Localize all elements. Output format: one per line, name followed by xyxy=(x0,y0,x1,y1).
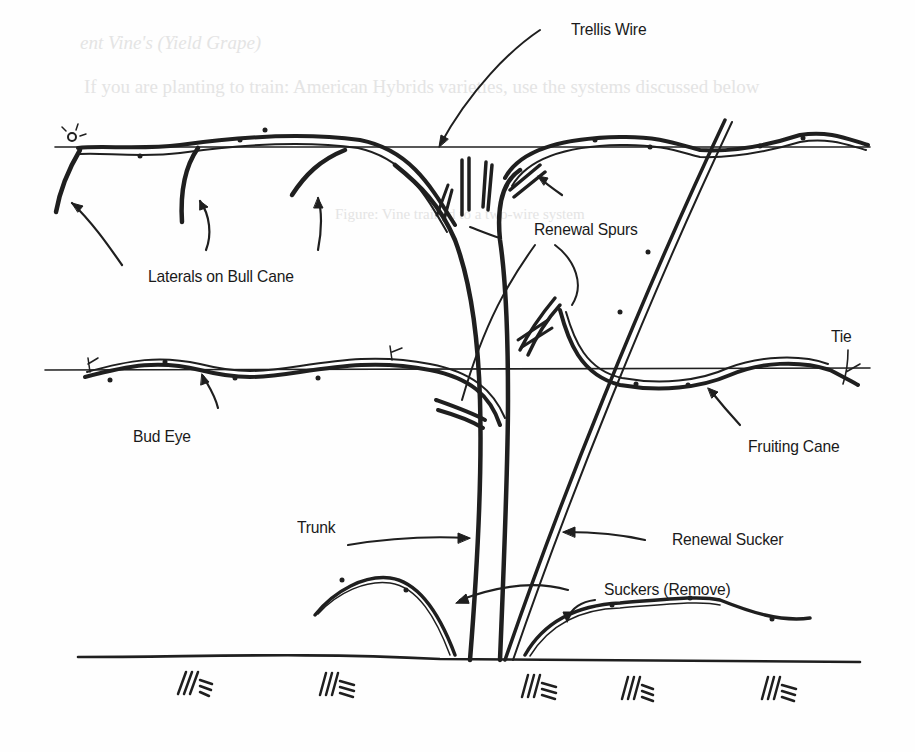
left-lower-cane-outer xyxy=(85,365,500,425)
label-laterals-on-bull-cane: Laterals on Bull Cane xyxy=(148,267,294,287)
renewal-sucker-pointer xyxy=(565,532,645,540)
trellis-wire-pointer xyxy=(440,30,540,145)
renewal-spur-top-1 xyxy=(483,162,492,210)
renewal-spurs-pointer-1 xyxy=(470,227,500,238)
lateral-arrow-1 xyxy=(72,203,122,265)
grapevine-illustration xyxy=(0,0,915,752)
tie-knot-top-left xyxy=(68,133,76,141)
label-fruiting-cane: Fruiting Cane xyxy=(748,437,839,457)
lateral-2 xyxy=(182,148,198,222)
right-lower-cane-outer xyxy=(560,310,858,388)
right-lower-cane-inner xyxy=(566,312,828,381)
label-renewal-sucker: Renewal Sucker xyxy=(672,530,783,550)
renewal-spurs-pointer-3 xyxy=(555,245,578,305)
left-sucker xyxy=(315,578,455,655)
left-lower-cane-inner xyxy=(87,359,505,418)
renewal-spur-top-2 xyxy=(462,158,469,215)
label-trellis-wire: Trellis Wire xyxy=(571,20,646,40)
diagram-canvas: ent Vine's (Yield Grape) If you are plan… xyxy=(0,0,915,752)
lateral-3 xyxy=(292,150,345,195)
label-bud-eye: Bud Eye xyxy=(133,427,191,447)
cut-spur-stub xyxy=(436,400,485,428)
bull-cane-outer xyxy=(78,136,455,225)
right-sucker xyxy=(525,598,810,655)
bull-cane-inner xyxy=(80,144,447,232)
trunk-pointer xyxy=(348,537,468,545)
label-suckers-remove: Suckers (Remove) xyxy=(604,580,731,600)
ground-symbols xyxy=(178,672,796,701)
label-trunk: Trunk xyxy=(297,518,335,538)
label-tie: Tie xyxy=(831,327,852,347)
label-renewal-spurs: Renewal Spurs xyxy=(534,220,638,240)
lateral-1 xyxy=(56,150,80,212)
